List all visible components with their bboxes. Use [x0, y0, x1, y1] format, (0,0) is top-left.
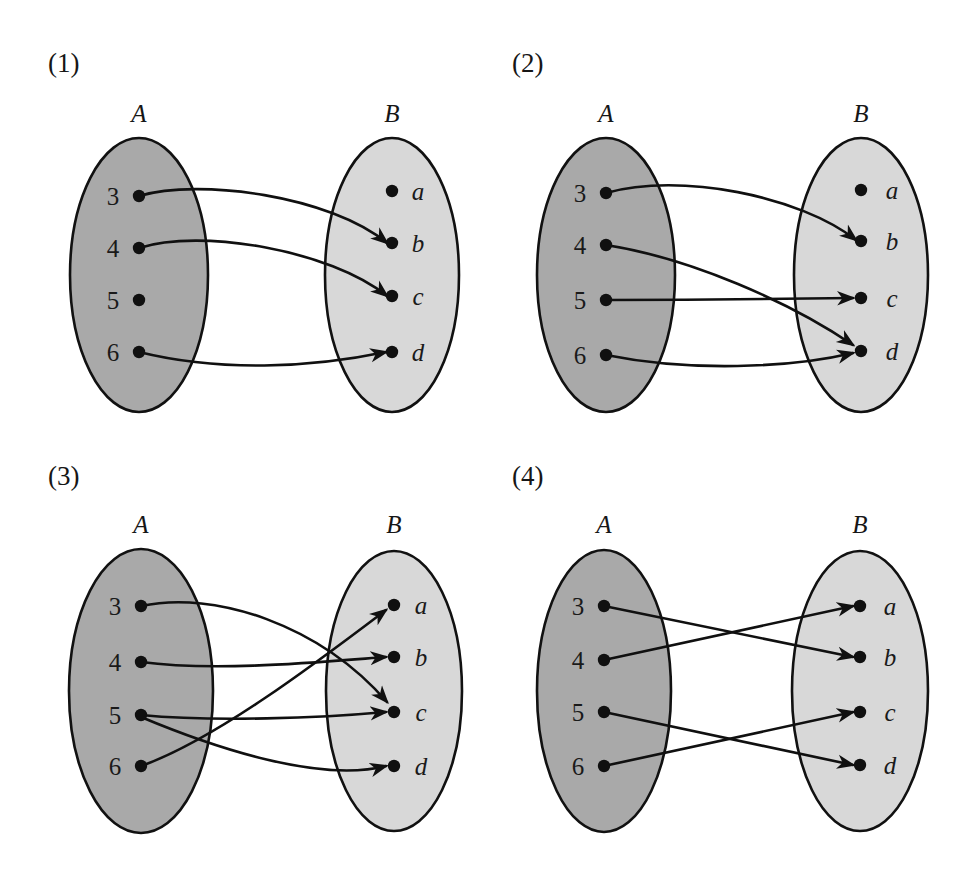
- panel-3-node-d-label: d: [415, 753, 428, 780]
- panel-4-node-c-label: c: [884, 699, 895, 726]
- panel-2-set-a-ellipse: [537, 138, 675, 412]
- panel-1-node-d-dot: [386, 346, 398, 358]
- panel-3-node-a-label: a: [415, 592, 428, 619]
- panel-3-set-a-ellipse: [69, 549, 213, 833]
- panel-4-set-a-ellipse: [537, 550, 671, 832]
- panel-3-node-4-dot: [135, 656, 147, 668]
- panel-2-set-b-label: B: [853, 100, 868, 127]
- panel-3-node-5-dot: [135, 709, 147, 721]
- panel-1-node-c-label: c: [412, 283, 423, 310]
- figure-root: (1) A B 3 4 5 6 a b c d (2) A B: [0, 0, 980, 876]
- panel-2-node-a-dot: [855, 184, 867, 196]
- panel-1-node-a-label: a: [412, 178, 425, 205]
- panel-2-node-b-label: b: [886, 228, 899, 255]
- panel-1-node-6-label: 6: [107, 339, 120, 366]
- panel-3-set-b-ellipse: [326, 551, 462, 831]
- panel-1-node-b-dot: [386, 237, 398, 249]
- panel-4-node-3-label: 3: [572, 593, 585, 620]
- panel-1-set-b-ellipse: [325, 138, 459, 412]
- panel-1-node-6-dot: [133, 346, 145, 358]
- panel-1-node-4-label: 4: [107, 235, 120, 262]
- panel-3-node-3-label: 3: [109, 593, 122, 620]
- panel-1-set-b-label: B: [384, 100, 399, 127]
- panel-3-node-5-label: 5: [109, 702, 122, 729]
- panel-2-node-5-dot: [600, 294, 612, 306]
- panel-1-node-4-dot: [133, 242, 145, 254]
- panel-1-node-c-dot: [386, 290, 398, 302]
- panel-3-node-6-dot: [135, 760, 147, 772]
- panel-1-node-5-dot: [133, 294, 145, 306]
- panel-4-node-3-dot: [598, 600, 610, 612]
- panel-4-node-4-dot: [598, 654, 610, 666]
- panel-2-node-c-label: c: [886, 285, 897, 312]
- panel-4-node-d-dot: [854, 759, 866, 771]
- arrow-diagram-figure: (1) A B 3 4 5 6 a b c d (2) A B: [0, 0, 980, 876]
- panel-1-number: (1): [48, 48, 79, 78]
- panel-3-set-b-label: B: [386, 511, 401, 538]
- panel-2-node-b-dot: [855, 235, 867, 247]
- panel-1-node-3-dot: [133, 190, 145, 202]
- panel-3-node-a-dot: [388, 599, 400, 611]
- panel-3-node-b-label: b: [415, 644, 428, 671]
- panel-4-node-5-label: 5: [572, 699, 585, 726]
- panel-3-node-b-dot: [388, 651, 400, 663]
- panel-4-node-5-dot: [598, 706, 610, 718]
- panel-2-node-d-dot: [855, 345, 867, 357]
- panel-4-set-b-ellipse: [792, 551, 928, 831]
- panel-2-set-a-label: A: [596, 100, 614, 127]
- panel-2-node-3-dot: [600, 187, 612, 199]
- panel-2-set-b-ellipse: [794, 138, 928, 412]
- panel-1-node-3-label: 3: [107, 183, 120, 210]
- panel-4-node-a-label: a: [884, 593, 897, 620]
- panel-3-node-3-dot: [135, 600, 147, 612]
- panel-4-number: (4): [512, 461, 543, 491]
- panel-3-node-6-label: 6: [109, 753, 122, 780]
- panel-4-set-b-label: B: [852, 511, 867, 538]
- panel-3-number: (3): [48, 461, 79, 491]
- panel-1-set-a-ellipse: [70, 138, 208, 412]
- panel-3-set-a-label: A: [131, 511, 149, 538]
- panel-4-node-d-label: d: [884, 752, 897, 779]
- panel-2-node-d-label: d: [886, 338, 899, 365]
- panel-3-node-c-label: c: [415, 699, 426, 726]
- panel-3-node-c-dot: [388, 706, 400, 718]
- panel-2-node-4-dot: [600, 239, 612, 251]
- panel-4-node-c-dot: [854, 706, 866, 718]
- panel-4-node-b-label: b: [884, 644, 897, 671]
- panel-2-node-4-label: 4: [574, 232, 587, 259]
- panel-4-node-a-dot: [854, 600, 866, 612]
- panel-3-node-d-dot: [388, 760, 400, 772]
- panel-1-node-a-dot: [386, 185, 398, 197]
- panel-1-set-a-label: A: [129, 100, 147, 127]
- panel-4-node-4-label: 4: [572, 647, 585, 674]
- panel-2-node-5-label: 5: [574, 287, 587, 314]
- panel-2-node-6-dot: [600, 349, 612, 361]
- panel-4-node-6-dot: [598, 760, 610, 772]
- panel-2-node-a-label: a: [886, 177, 899, 204]
- panel-1-node-5-label: 5: [107, 287, 120, 314]
- panel-2-node-c-dot: [855, 292, 867, 304]
- panel-2-number: (2): [512, 48, 543, 78]
- panel-1-node-b-label: b: [412, 230, 425, 257]
- panel-1-node-d-label: d: [412, 339, 425, 366]
- panel-3-node-4-label: 4: [109, 649, 122, 676]
- panel-4-node-6-label: 6: [572, 753, 585, 780]
- panel-4-node-b-dot: [854, 651, 866, 663]
- panel-4-set-a-label: A: [594, 511, 612, 538]
- panel-2-node-6-label: 6: [574, 342, 587, 369]
- panel-2-node-3-label: 3: [574, 180, 587, 207]
